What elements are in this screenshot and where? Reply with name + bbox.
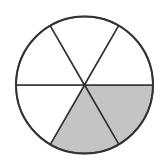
fraction-circle-diagram: [0, 0, 164, 165]
